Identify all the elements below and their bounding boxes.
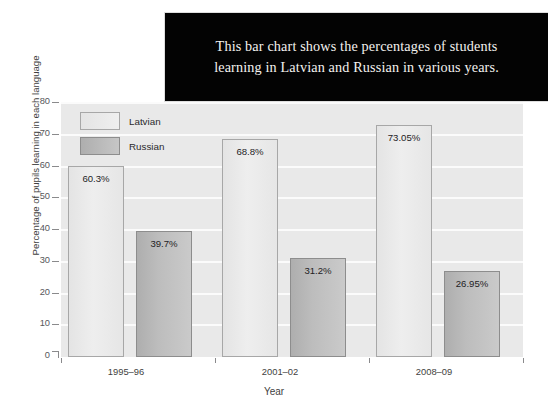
x-tick-label: 2001–02: [262, 366, 299, 377]
y-tick-mark: [52, 261, 59, 262]
chart-legend: LatvianRussian: [80, 110, 210, 160]
y-tick-label: 20: [40, 287, 50, 297]
y-tick-label: 80: [40, 96, 50, 106]
bar-value-label: 68.8%: [223, 146, 277, 157]
caption-banner: This bar chart shows the percentages of …: [165, 13, 548, 101]
caption-text: This bar chart shows the percentages of …: [207, 36, 507, 77]
bar-latvian-1[interactable]: 68.8%: [222, 139, 278, 357]
bar-russian-2[interactable]: 26.95%: [444, 271, 500, 357]
x-tick-label: 2008–09: [416, 366, 453, 377]
y-tick-mark: [52, 293, 59, 294]
x-tick-mark: [61, 358, 62, 363]
y-tick-mark: [52, 197, 59, 198]
y-axis-title: Percentage of pupils learning in each la…: [30, 36, 41, 276]
legend-swatch-russian: [80, 137, 120, 155]
legend-label: Latvian: [129, 116, 161, 127]
y-tick-label: 40: [40, 223, 50, 233]
x-tick-label: 1995–96: [108, 366, 145, 377]
bar-value-label: 60.3%: [69, 173, 123, 184]
gridline: [61, 197, 523, 199]
y-tick-mark: [52, 134, 59, 135]
y-tick-label: 60: [40, 160, 50, 170]
y-tick-mark: [52, 166, 59, 167]
x-axis-title: Year: [0, 386, 548, 397]
bar-value-label: 31.2%: [291, 265, 345, 276]
x-tick-mark: [215, 358, 216, 363]
gridline: [61, 166, 523, 168]
bar-latvian-0[interactable]: 60.3%: [68, 166, 124, 357]
legend-swatch-latvian: [80, 112, 120, 130]
bar-value-label: 73.05%: [377, 132, 431, 143]
bar-value-label: 26.95%: [445, 278, 499, 289]
y-tick-label: 30: [40, 255, 50, 265]
x-tick-mark: [369, 358, 370, 363]
y-tick-mark: [52, 229, 59, 230]
y-tick-label: 0: [45, 350, 50, 360]
bar-russian-1[interactable]: 31.2%: [290, 258, 346, 357]
gridline: [61, 229, 523, 231]
y-tick-label: 50: [40, 191, 50, 201]
y-tick-mark: [52, 351, 59, 358]
bar-russian-0[interactable]: 39.7%: [136, 231, 192, 357]
x-tick-mark: [523, 358, 524, 363]
y-tick-label: 70: [40, 128, 50, 138]
bar-value-label: 39.7%: [137, 238, 191, 249]
y-tick-mark: [52, 324, 59, 325]
y-tick-mark: [52, 102, 59, 103]
bar-latvian-2[interactable]: 73.05%: [376, 125, 432, 357]
legend-item-latvian[interactable]: Latvian: [80, 110, 210, 132]
legend-label: Russian: [129, 141, 164, 152]
y-tick-label: 10: [40, 318, 50, 328]
gridline: [61, 102, 523, 104]
legend-item-russian[interactable]: Russian: [80, 135, 210, 157]
